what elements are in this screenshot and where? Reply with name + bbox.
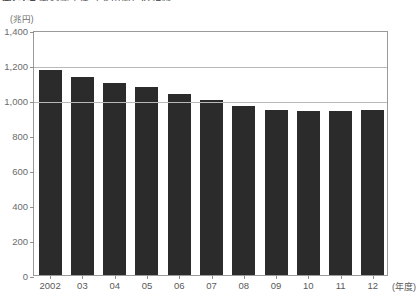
y-axis-tick xyxy=(30,172,34,173)
gridline xyxy=(34,67,387,68)
x-axis-tick xyxy=(308,275,309,279)
bar xyxy=(232,106,255,275)
x-axis-tick-label: 11 xyxy=(336,281,346,291)
y-axis-tick-label: 600 xyxy=(12,167,28,177)
bar xyxy=(39,70,62,275)
y-axis-tick-label: 1,000 xyxy=(4,97,28,107)
gridline xyxy=(34,102,387,103)
x-axis-tick-label: 10 xyxy=(303,281,314,291)
bar xyxy=(103,83,126,276)
x-axis-tick xyxy=(115,275,116,279)
y-axis-tick xyxy=(30,102,34,103)
x-axis-tick xyxy=(373,275,374,279)
y-axis-tick-label: 200 xyxy=(12,237,28,247)
y-axis-unit-label: (兆円) xyxy=(10,12,34,24)
x-axis-tick-label: 04 xyxy=(109,281,120,291)
x-axis-tick xyxy=(276,275,277,279)
figure-title-number: 図2-1-4 xyxy=(2,0,35,1)
figure-title-text: 国内総生産（支出側）の推移 xyxy=(39,0,172,1)
bar xyxy=(265,110,288,275)
bar xyxy=(361,110,384,275)
y-axis-tick-label: 1,400 xyxy=(4,27,28,37)
x-axis-tick xyxy=(179,275,180,279)
bar xyxy=(135,87,158,275)
x-axis-tick xyxy=(244,275,245,279)
x-axis-tick-label: 03 xyxy=(77,281,88,291)
x-axis-tick-label: 12 xyxy=(368,281,379,291)
y-axis-tick xyxy=(30,207,34,208)
x-axis-tick-label: 07 xyxy=(206,281,217,291)
x-axis-tick xyxy=(212,275,213,279)
x-axis-tick-label: 09 xyxy=(271,281,282,291)
x-axis-tick xyxy=(50,275,51,279)
y-axis-tick xyxy=(30,32,34,33)
x-axis-unit-label: (年度) xyxy=(392,282,416,292)
bars-layer xyxy=(34,32,387,275)
y-axis-tick-label: 0 xyxy=(23,272,28,282)
y-axis-tick xyxy=(30,277,34,278)
y-axis-tick-label: 800 xyxy=(12,132,28,142)
x-axis-tick xyxy=(82,275,83,279)
bar xyxy=(329,111,352,276)
x-axis-tick-label: 05 xyxy=(142,281,153,291)
y-axis-tick xyxy=(30,137,34,138)
y-axis-tick-label: 400 xyxy=(12,202,28,212)
y-axis-tick-label: 1,200 xyxy=(4,62,28,72)
bar xyxy=(297,111,320,276)
plot-area: 02004006008001,0001,2001,400200203040506… xyxy=(33,31,388,276)
x-axis-tick xyxy=(147,275,148,279)
y-axis-tick xyxy=(30,242,34,243)
bar xyxy=(71,77,94,275)
x-axis-tick xyxy=(341,275,342,279)
x-axis-tick-label: 06 xyxy=(174,281,185,291)
x-axis-tick-label: 2002 xyxy=(40,281,61,291)
figure-title: 図2-1-4国内総生産（支出側）の推移 xyxy=(2,0,172,1)
bar xyxy=(200,100,223,275)
bar xyxy=(168,94,191,275)
y-axis-tick xyxy=(30,67,34,68)
x-axis-tick-label: 08 xyxy=(238,281,249,291)
